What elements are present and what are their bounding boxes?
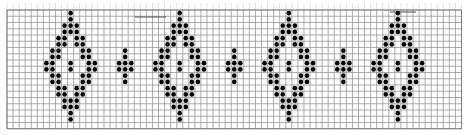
dot [196,61,201,66]
dot [153,67,158,72]
dot [190,55,195,60]
dot [414,67,419,72]
dot [293,92,298,97]
dot [190,92,195,97]
dot [190,48,195,53]
dot [299,80,304,85]
dot [347,67,352,72]
dot [232,67,237,72]
dot [44,61,49,66]
dot [402,30,407,35]
dot [286,67,291,72]
dot [177,105,182,110]
dot [408,86,413,91]
dot [171,23,176,28]
dot [286,105,291,110]
dot [159,55,164,60]
dot [299,48,304,53]
dot [383,48,388,53]
dot [402,36,407,41]
dot [268,80,273,85]
dot [341,61,346,66]
dot [377,48,382,53]
dot [268,48,273,53]
dot [238,61,243,66]
dot [159,61,164,66]
dot [274,86,279,91]
dot [420,61,425,66]
dot [123,61,128,66]
dot [341,67,346,72]
dot [68,98,73,103]
dot [274,92,279,97]
dot [293,86,298,91]
dot [390,86,395,91]
dot [402,105,407,110]
dot [87,73,92,78]
dot [226,67,231,72]
dot [159,73,164,78]
dot [238,67,243,72]
dot [402,98,407,103]
dot [190,73,195,78]
dot [286,30,291,35]
dot [80,36,85,41]
dot [280,98,285,103]
dot [414,55,419,60]
dot [280,23,285,28]
dot [299,55,304,60]
dot [274,73,279,78]
dot [311,67,316,72]
dot [74,98,79,103]
dot [80,55,85,60]
dot [196,55,201,60]
dot [232,61,237,66]
dot [165,80,170,85]
dot [68,111,73,116]
dot [171,42,176,47]
dot [402,42,407,47]
dot [341,48,346,53]
dot [396,11,401,16]
dot [280,105,285,110]
dot [62,105,67,110]
dot [383,36,388,41]
dot [183,92,188,97]
dot [62,98,67,103]
dot [396,117,401,122]
dot [50,55,55,60]
dot [293,42,298,47]
dot [414,61,419,66]
dot [390,30,395,35]
dot [80,92,85,97]
dot [165,92,170,97]
dot [165,86,170,91]
dot [268,61,273,66]
dot [183,42,188,47]
dot [80,48,85,53]
dot [190,42,195,47]
dot [56,48,61,53]
dot [171,30,176,35]
dot [165,55,170,60]
dot [286,98,291,103]
dot [74,23,79,28]
dot [177,117,182,122]
dot [93,61,98,66]
dot [129,61,134,66]
dot [74,30,79,35]
dot [87,55,92,60]
dot [390,92,395,97]
dot [390,42,395,47]
dot [80,86,85,91]
dot [280,30,285,35]
dot [268,55,273,60]
dot [402,92,407,97]
dot [153,61,158,66]
dot [335,67,340,72]
dot [232,55,237,60]
dot [286,23,291,28]
dot [335,61,340,66]
dot [396,30,401,35]
dot [311,61,316,66]
